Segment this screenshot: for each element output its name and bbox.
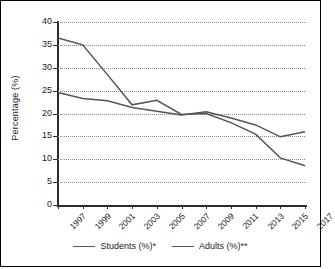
x-tick-mark [58,205,59,209]
y-tick-mark [53,136,57,137]
y-tick-mark [53,205,57,206]
x-tick-mark [182,205,183,209]
legend-swatch [172,246,194,247]
y-axis-title: Percentage (%) [10,58,20,158]
x-tick-mark [206,205,207,209]
x-tick-label: 2003 [142,211,162,231]
x-tick-label: 2011 [240,211,260,231]
chart-figure: Percentage (%) 0510152025303540 19971999… [0,0,321,267]
chart-legend: Students (%)*Adults (%)** [1,241,320,251]
plot-area: 0510152025303540 [58,22,305,205]
y-tick-mark [53,159,57,160]
x-tick-mark [83,205,84,209]
legend-item: Adults (%)** [172,241,248,251]
y-tick-mark [53,68,57,69]
y-tick-label: 20 [26,109,52,118]
legend-item: Students (%)* [73,241,156,251]
y-tick-label: 35 [26,40,52,49]
y-tick-label: 15 [26,131,52,140]
x-tick-label: 2013 [265,211,285,231]
y-tick-label: 30 [26,63,52,72]
y-tick-mark [53,114,57,115]
x-tick-label: 2007 [191,211,211,231]
y-tick-mark [53,45,57,46]
y-tick-mark [53,22,57,23]
series-layer [58,22,305,205]
x-tick-label: 2009 [216,211,236,231]
x-tick-label: 2015 [290,211,310,231]
x-tick-label: 1999 [92,211,112,231]
x-tick-label: 2005 [166,211,186,231]
x-tick-mark [132,205,133,209]
legend-label: Students (%)* [100,241,156,251]
x-tick-mark [231,205,232,209]
y-tick-label: 40 [26,17,52,26]
x-tick-label: 2017 [315,211,335,231]
x-tick-mark [280,205,281,209]
x-tick-mark [256,205,257,209]
y-tick-label: 0 [26,200,52,209]
legend-swatch [73,246,95,247]
x-tick-label: 1997 [68,211,88,231]
line-series-adults [58,38,305,166]
x-tick-mark [305,205,306,209]
y-tick-label: 10 [26,154,52,163]
legend-label: Adults (%)** [199,241,248,251]
y-tick-mark [53,91,57,92]
x-tick-mark [107,205,108,209]
y-tick-label: 25 [26,86,52,95]
y-tick-label: 5 [26,177,52,186]
y-tick-mark [53,182,57,183]
x-tick-label: 2001 [117,211,137,231]
x-tick-mark [157,205,158,209]
